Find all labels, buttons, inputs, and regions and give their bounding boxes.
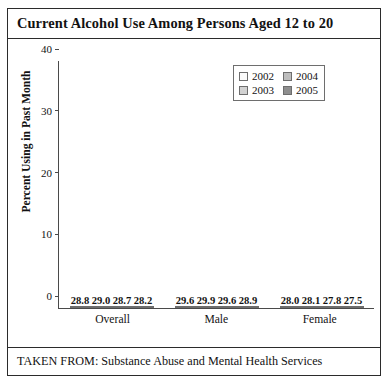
bar-female-2003[interactable]: 28.1 <box>301 306 322 308</box>
legend-label-2003: 2003 <box>252 84 274 96</box>
bar-value-label: 27.8 <box>323 295 342 306</box>
y-axis-tick: 10 <box>41 228 59 240</box>
legend-label-2004: 2004 <box>296 70 318 82</box>
caption-band: TAKEN FROM: Substance Abuse and Mental H… <box>8 347 380 375</box>
legend-swatch-2003 <box>239 86 248 95</box>
bar-value-label: 28.1 <box>302 295 321 306</box>
y-axis-tick-label: 10 <box>41 228 55 240</box>
bar-value-label: 28.9 <box>239 295 258 306</box>
bar-slot: 28.7 <box>112 306 133 308</box>
bar-value-label: 28.0 <box>281 295 300 306</box>
bar-overall-2004[interactable]: 28.7 <box>112 306 133 308</box>
y-axis-tick-mark <box>55 49 59 50</box>
bar-slot: 29.9 <box>196 306 217 308</box>
bar-female-2002[interactable]: 28.0 <box>280 306 301 308</box>
legend-swatch-2002 <box>239 72 248 81</box>
bar-female-2004[interactable]: 27.8 <box>322 306 343 308</box>
legend-item-2003[interactable]: 2003 <box>239 84 274 96</box>
category-label-female: Female <box>303 313 337 326</box>
bar-overall-2003[interactable]: 29.0 <box>91 306 112 308</box>
legend: 2002200420032005 <box>233 65 325 101</box>
bar-value-label: 29.9 <box>197 295 216 306</box>
bar-slot: 28.0 <box>280 306 301 308</box>
bar-slot: 28.8 <box>70 306 91 308</box>
bar-groups: 28.829.028.728.229.629.929.628.928.028.1… <box>59 61 374 308</box>
y-axis-tick-label: 40 <box>41 43 55 55</box>
legend-swatch-2005 <box>283 86 292 95</box>
bar-slot: 29.0 <box>91 306 112 308</box>
bar-slot: 27.8 <box>322 306 343 308</box>
bar-overall-2002[interactable]: 28.8 <box>70 306 91 308</box>
legend-label-2002: 2002 <box>252 70 274 82</box>
bar-value-label: 28.2 <box>134 295 153 306</box>
bar-value-label: 29.6 <box>176 295 195 306</box>
bar-slot: 27.5 <box>343 306 364 308</box>
legend-swatch-2004 <box>283 72 292 81</box>
bar-slot: 28.1 <box>301 306 322 308</box>
y-axis-tick-label: 0 <box>47 290 56 302</box>
y-axis-title: Percent Using in Past Month <box>20 52 33 232</box>
y-axis-tick: 30 <box>41 105 59 117</box>
figure-frame: Current Alcohol Use Among Persons Aged 1… <box>7 8 381 376</box>
chart-title: Current Alcohol Use Among Persons Aged 1… <box>8 15 333 32</box>
bar-slot: 28.9 <box>238 306 259 308</box>
bar-male-2005[interactable]: 28.9 <box>238 306 259 308</box>
source-caption: TAKEN FROM: Substance Abuse and Mental H… <box>8 354 322 369</box>
bar-value-label: 29.0 <box>92 295 111 306</box>
bar-slot: 29.6 <box>175 306 196 308</box>
bar-slot: 29.6 <box>217 306 238 308</box>
y-axis-tick: 20 <box>41 167 59 179</box>
bar-value-label: 28.7 <box>113 295 132 306</box>
category-label-male: Male <box>204 313 228 326</box>
plot-area: 010203040 28.829.028.728.229.629.929.628… <box>58 61 374 309</box>
chart-canvas: Percent Using in Past Month 010203040 28… <box>8 39 380 347</box>
category-label-overall: Overall <box>95 313 130 326</box>
title-band: Current Alcohol Use Among Persons Aged 1… <box>8 9 380 39</box>
y-axis-tick: 0 <box>47 290 60 302</box>
bar-value-label: 29.6 <box>218 295 237 306</box>
x-axis-category-labels: OverallMaleFemale <box>58 313 374 326</box>
bar-male-2004[interactable]: 29.6 <box>217 306 238 308</box>
y-axis-tick-label: 30 <box>41 105 55 117</box>
legend-item-2002[interactable]: 2002 <box>239 70 274 82</box>
y-axis-tick-label: 20 <box>41 167 55 179</box>
bar-overall-2005[interactable]: 28.2 <box>133 306 154 308</box>
bar-value-label: 28.8 <box>71 295 90 306</box>
bar-male-2002[interactable]: 29.6 <box>175 306 196 308</box>
legend-item-2005[interactable]: 2005 <box>283 84 318 96</box>
legend-label-2005: 2005 <box>296 84 318 96</box>
bar-male-2003[interactable]: 29.9 <box>196 306 217 308</box>
bar-female-2005[interactable]: 27.5 <box>343 306 364 308</box>
bar-value-label: 27.5 <box>344 295 363 306</box>
bar-group-overall: 28.829.028.728.2 <box>70 61 154 308</box>
y-axis-tick: 40 <box>41 43 59 55</box>
bar-slot: 28.2 <box>133 306 154 308</box>
legend-item-2004[interactable]: 2004 <box>283 70 318 82</box>
